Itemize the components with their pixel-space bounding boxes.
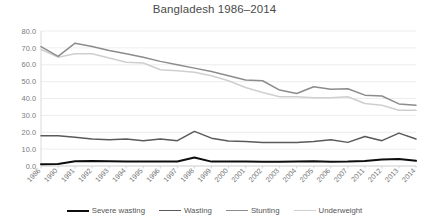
x-tick-label: 2014	[400, 166, 417, 184]
legend-label: Severe wasting	[92, 206, 145, 215]
x-tick-label: 1991	[59, 166, 76, 184]
x-tick-label: 1996	[144, 166, 161, 184]
x-tick-label: 1994	[110, 166, 127, 184]
chart-legend: Severe wastingWastingStuntingUnderweight	[0, 206, 429, 215]
legend-label: Wasting	[184, 206, 212, 215]
x-tick-label: 2003	[264, 166, 281, 184]
y-tick-label: 30.0	[22, 111, 36, 120]
series-line-stunting	[41, 43, 416, 105]
y-tick-label: 20.0	[22, 128, 36, 137]
y-tick-label: 10.0	[22, 145, 36, 154]
y-tick-label: 40.0	[22, 94, 36, 103]
x-tick-label: 1993	[93, 166, 110, 184]
legend-item-stunting[interactable]: Stunting	[226, 206, 280, 215]
y-tick-label: 60.0	[22, 60, 36, 69]
x-tick-label: 2013	[383, 166, 400, 184]
series-line-wasting	[41, 131, 416, 142]
y-tick-label: 50.0	[22, 77, 36, 86]
x-tick-label: 1990	[42, 166, 59, 184]
series-line-underweight	[41, 50, 416, 111]
x-tick-label: 1995	[127, 166, 144, 184]
x-tick-label: 1999	[195, 166, 212, 184]
y-tick-label: 80.0	[22, 27, 36, 36]
legend-label: Underweight	[319, 206, 363, 215]
chart-container: Bangladesh 1986–2014 0.010.020.030.040.0…	[0, 0, 429, 219]
x-tick-label: 2004	[281, 166, 298, 184]
legend-label: Stunting	[251, 206, 280, 215]
y-axis-gridlines: 0.010.020.030.040.050.060.070.080.0	[22, 27, 416, 171]
line-chart-plot: 0.010.020.030.040.050.060.070.080.019861…	[0, 0, 429, 196]
x-tick-label: 2011	[349, 166, 366, 183]
legend-item-severe-wasting[interactable]: Severe wasting	[67, 206, 145, 215]
x-tick-label: 2005	[298, 166, 315, 184]
legend-item-wasting[interactable]: Wasting	[159, 206, 212, 215]
x-tick-label: 2002	[247, 166, 264, 184]
legend-swatch-line-icon	[226, 210, 248, 211]
legend-item-underweight[interactable]: Underweight	[294, 206, 363, 215]
x-tick-label: 2000	[212, 166, 229, 184]
x-tick-label: 1992	[76, 166, 93, 184]
y-tick-label: 70.0	[22, 44, 36, 53]
legend-swatch-line-icon	[67, 210, 89, 212]
x-tick-label: 2001	[230, 166, 247, 184]
legend-swatch-line-icon	[294, 210, 316, 211]
x-tick-label: 1997	[161, 166, 178, 184]
x-tick-label: 2007	[332, 166, 349, 184]
legend-swatch-line-icon	[159, 210, 181, 211]
x-tick-label: 1998	[178, 166, 195, 184]
series-line-severe-wasting	[41, 158, 416, 165]
x-tick-label: 2006	[315, 166, 332, 184]
x-tick-label: 2012	[366, 166, 383, 184]
